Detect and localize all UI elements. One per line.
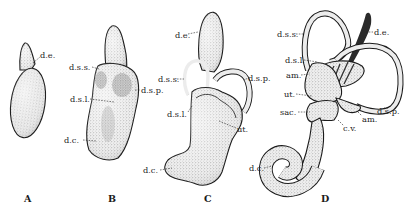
label-c-dsl: d.s.l. (167, 109, 187, 119)
label-d-dsl: d.s.l. (285, 55, 305, 65)
panel-c: d.e. d.s.s. d.s.p. d.s.l. ut. d.c. C (143, 12, 271, 204)
label-c-dsp: d.s.p. (248, 73, 271, 83)
label-d-de: d.e. (374, 27, 389, 37)
label-b-dsp: d.s.p. (141, 85, 164, 95)
panel-a: d.e. A (6, 43, 55, 204)
label-d-dc: d.c. (249, 163, 264, 173)
label-b-dsl: d.s.l. (70, 94, 90, 104)
label-d-ut: ut. (284, 89, 295, 99)
label-c-dc: d.c. (143, 165, 158, 175)
panel-d: d.s.s. d.e. d.s.l. am. ut. sac. c.v. d.s… (249, 13, 401, 204)
panel-letter-c: C (204, 193, 212, 204)
label-b-dss: d.s.s. (69, 62, 90, 72)
label-d-dss: d.s.s. (277, 29, 298, 39)
label-d-am-lower: am. (362, 114, 377, 124)
label-b-dc: d.c. (64, 135, 79, 145)
panel-b: d.s.s. d.s.l. d.s.p. d.c. B (64, 26, 164, 204)
label-d-sac: sac. (280, 107, 296, 117)
label-c-ut: ut. (237, 124, 248, 134)
panel-letter-d: D (321, 193, 329, 204)
endolymphatic-duct-d (348, 13, 371, 64)
label-c-dss: d.s.s. (158, 74, 179, 84)
label-d-am-upper: am. (286, 70, 301, 80)
saccule-d (307, 101, 339, 123)
label-d-cv: c.v. (343, 123, 356, 133)
panel-letter-b: B (108, 193, 116, 204)
label-c-de: d.e. (175, 30, 190, 40)
label-d-dsp: d.s.p. (377, 106, 400, 116)
label-a-de: d.e. (40, 50, 55, 60)
labyrinth-development-figure: d.e. A d.s.s. d.s.l. d.s.p. d.c. B (0, 0, 413, 207)
panel-letter-a: A (23, 193, 32, 204)
